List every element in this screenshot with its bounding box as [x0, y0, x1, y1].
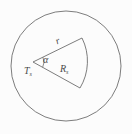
label-angle: α [43, 55, 48, 65]
label-angle-base: α [43, 54, 48, 65]
label-sector-region-subscript: s [66, 68, 68, 75]
label-sector-region: Rs [60, 64, 69, 75]
label-apex-point-subscript: s [30, 70, 32, 77]
label-apex-point: Ts [24, 66, 32, 77]
figure-container: r α Ts Rs [0, 0, 132, 134]
